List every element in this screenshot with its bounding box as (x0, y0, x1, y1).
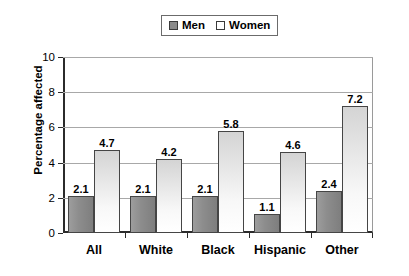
bar-value-women-other: 7.2 (347, 93, 362, 105)
bar-value-women-black: 5.8 (223, 118, 238, 130)
bar-men-other[interactable]: 2.4 (316, 191, 342, 233)
x-tick-mark-other (311, 233, 312, 238)
bar-women-all[interactable]: 4.7 (94, 150, 120, 233)
y-tick-label-6: 6 (49, 121, 55, 133)
bar-value-men-hispanic: 1.1 (259, 201, 274, 213)
bar-women-black[interactable]: 5.8 (218, 131, 244, 233)
y-tick-label-4: 4 (49, 157, 55, 169)
bar-men-black[interactable]: 2.1 (192, 196, 218, 233)
x-label-black: Black (187, 243, 249, 257)
bars-hispanic: 1.1 4.6 (249, 57, 311, 233)
y-tick-mark-0 (58, 233, 63, 234)
bar-men-white[interactable]: 2.1 (130, 196, 156, 233)
x-tick-mark-black (187, 233, 188, 238)
x-label-other: Other (311, 243, 373, 257)
bar-group-white: 2.1 4.2 (125, 57, 187, 233)
bars-white: 2.1 4.2 (125, 57, 187, 233)
men-swatch-icon (169, 21, 178, 30)
legend-label-men: Men (182, 20, 205, 32)
bar-chart: Men Women Percentage affected 0 2 4 6 (0, 0, 409, 276)
women-swatch-icon (216, 21, 225, 30)
bar-men-hispanic[interactable]: 1.1 (254, 214, 280, 233)
bar-value-women-all: 4.7 (99, 137, 114, 149)
x-label-white: White (125, 243, 187, 257)
bar-value-men-all: 2.1 (73, 183, 88, 195)
bar-women-white[interactable]: 4.2 (156, 159, 182, 233)
bar-value-men-white: 2.1 (135, 183, 150, 195)
bar-value-men-other: 2.4 (321, 178, 336, 190)
bar-value-women-hispanic: 4.6 (285, 139, 300, 151)
bars-black: 2.1 5.8 (187, 57, 249, 233)
legend-entry-men: Men (169, 20, 205, 32)
bars-other: 2.4 7.2 (311, 57, 373, 233)
bars-all: 2.1 4.7 (63, 57, 125, 233)
y-tick-label-0: 0 (49, 227, 55, 239)
y-tick-label-2: 2 (49, 192, 55, 204)
x-tick-mark-hispanic (249, 233, 250, 238)
y-tick-label-10: 10 (42, 51, 55, 63)
bar-group-hispanic: 1.1 4.6 (249, 57, 311, 233)
bar-groups: 2.1 4.7 2.1 4.2 (63, 57, 373, 233)
x-label-all: All (63, 243, 125, 257)
bar-group-other: 2.4 7.2 (311, 57, 373, 233)
bar-women-hispanic[interactable]: 4.6 (280, 152, 306, 233)
bar-men-all[interactable]: 2.1 (68, 196, 94, 233)
legend-label-women: Women (229, 20, 270, 32)
bar-value-men-black: 2.1 (197, 183, 212, 195)
bar-group-black: 2.1 5.8 (187, 57, 249, 233)
bar-women-other[interactable]: 7.2 (342, 106, 368, 233)
x-tick-mark-end (372, 233, 373, 238)
x-label-hispanic: Hispanic (249, 243, 311, 257)
x-axis-labels: All White Black Hispanic Other (63, 243, 373, 257)
y-tick-label-8: 8 (49, 86, 55, 98)
bar-group-all: 2.1 4.7 (63, 57, 125, 233)
x-tick-mark-white (125, 233, 126, 238)
chart-legend: Men Women (161, 15, 278, 36)
legend-entry-women: Women (216, 20, 270, 32)
plot-area: 0 2 4 6 8 10 (63, 57, 373, 233)
bar-value-women-white: 4.2 (161, 146, 176, 158)
